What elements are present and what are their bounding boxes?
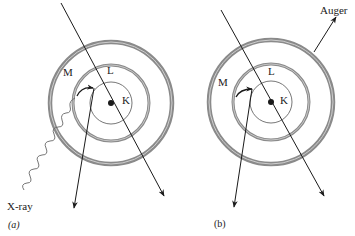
ejected-electron-path: [234, 89, 252, 207]
diagram-svg: M L K X-ray (a) Auger M L K (b): [0, 0, 355, 236]
l-shell-label-a: L: [107, 64, 114, 76]
m-shell-label-a: M: [63, 66, 73, 78]
m-shell-label-b: M: [218, 76, 228, 88]
panel-b: Auger M L K (b): [209, 4, 348, 230]
transition-arrow: [236, 89, 252, 97]
ejected-electron-path: [74, 88, 94, 208]
k-shell-label-b: K: [280, 94, 288, 106]
k-shell-label-a: K: [122, 94, 130, 106]
auger-xray-diagram: M L K X-ray (a) Auger M L K (b): [0, 0, 355, 236]
transition-arrow: [77, 88, 93, 96]
panel-b-caption: (b): [214, 218, 226, 230]
panel-a-caption: (a): [8, 219, 20, 231]
auger-label: Auger: [320, 4, 348, 16]
panel-a: M L K X-ray (a): [7, 3, 172, 231]
l-shell-label-b: L: [268, 65, 275, 77]
xray-label: X-ray: [7, 200, 33, 212]
auger-electron-path: [314, 17, 336, 52]
